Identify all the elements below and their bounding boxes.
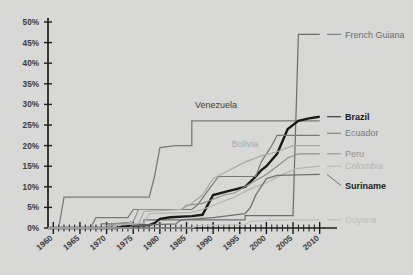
chart-container: 0%5%10%15%20%25%30%35%40%45%50%196019651… <box>0 0 413 275</box>
y-tick-label: 35% <box>23 80 40 89</box>
x-tick-label: 1975 <box>115 233 135 252</box>
x-tick-label: 1995 <box>221 233 241 252</box>
series-label-suriname: Suriname <box>345 181 386 191</box>
x-tick-label: 1980 <box>141 233 161 252</box>
series-line-french-guiana <box>48 34 320 228</box>
y-tick-label: 5% <box>27 203 40 212</box>
y-tick-label: 20% <box>23 142 40 151</box>
x-tick-label: 2000 <box>248 233 268 252</box>
series-line-venezuela <box>48 121 320 228</box>
x-tick-label: 2005 <box>275 233 295 252</box>
series-label-bolivia: Bolivia <box>232 139 259 149</box>
series-label-venezuela: Venezuela <box>195 100 237 110</box>
x-tick-label: 1965 <box>62 233 82 252</box>
y-tick-label: 30% <box>23 100 40 109</box>
y-tick-label: 50% <box>23 18 40 27</box>
series-label-peru: Peru <box>345 149 364 159</box>
series-line-brazil <box>48 117 320 228</box>
x-tick-label: 1970 <box>88 233 108 252</box>
series-label-guyana: Guyana <box>345 215 377 225</box>
y-tick-label: 10% <box>23 183 40 192</box>
x-tick-label: 1990 <box>195 233 215 252</box>
series-label-brazil: Brazil <box>345 112 370 122</box>
y-tick-label: 25% <box>23 121 40 130</box>
series-label-french-guiana: French Guiana <box>345 30 405 40</box>
x-tick-label: 1985 <box>168 233 188 252</box>
leader-line <box>327 174 341 185</box>
y-tick-label: 40% <box>23 59 40 68</box>
y-tick-label: 0% <box>27 224 40 233</box>
series-label-colombia: Colombia <box>345 161 383 171</box>
line-chart: 0%5%10%15%20%25%30%35%40%45%50%196019651… <box>0 0 413 275</box>
y-tick-label: 15% <box>23 162 40 171</box>
series-line-guyana <box>48 220 320 228</box>
y-tick-label: 45% <box>23 39 40 48</box>
series-label-ecuador: Ecuador <box>345 128 379 138</box>
x-tick-label: 2010 <box>301 233 321 252</box>
x-tick-label: 1960 <box>35 233 55 252</box>
